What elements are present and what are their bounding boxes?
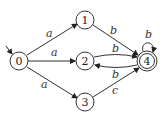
edge-label-4-2: b: [112, 68, 119, 81]
state-label-2: 2: [82, 55, 89, 68]
state-0: 0: [10, 52, 28, 70]
start-arrow: [6, 46, 12, 54]
edge-0-3: [27, 67, 77, 98]
state-label-3: 3: [82, 96, 89, 109]
state-label-1: 1: [82, 14, 89, 27]
edge-label-0-3: a: [41, 78, 48, 91]
edge-label-2-4: b: [112, 42, 119, 55]
state-3: 3: [76, 93, 94, 111]
state-label-4: 4: [144, 55, 151, 68]
edge-label-0-2: a: [51, 46, 58, 59]
edge-label-4-4: b: [145, 28, 152, 41]
state-1: 1: [76, 11, 94, 29]
state-label-0: 0: [16, 55, 23, 68]
state-4-accepting: 4: [137, 51, 157, 71]
edge-label-0-1: a: [46, 27, 53, 40]
edge-label-1-4: b: [110, 24, 117, 37]
automaton-diagram: a a a b b b c b 0 1 2 3 4: [0, 0, 166, 115]
edge-label-3-4: c: [112, 84, 118, 97]
state-2: 2: [76, 52, 94, 70]
